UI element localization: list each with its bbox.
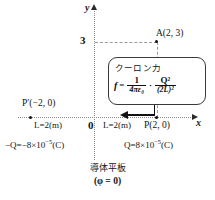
charge-negative-prefix: −Q=−8×10 — [5, 140, 45, 150]
formula-fraction-1-numerator: 1 — [132, 76, 141, 85]
charge-positive-unit: (C) — [161, 140, 173, 150]
y-axis — [94, 8, 95, 160]
formula-equals: = — [119, 80, 124, 90]
callout-title: クーロン力 — [115, 61, 161, 73]
y-tick-label-3: 3 — [80, 34, 86, 46]
formula-fraction-2-denominator: (2L)² — [155, 85, 176, 94]
coulomb-force-callout: クーロン力 f = 1 4πε₀ · Q² (2L)² — [108, 57, 206, 105]
charge-negative-unit: (C) — [52, 140, 64, 150]
origin-label: 0 — [88, 119, 94, 131]
coulomb-force-diagram: y x 3 0 A(2, 3) P′(−2, 0) P(2, 0) L=2(m)… — [0, 0, 215, 200]
point-p-marker — [155, 116, 158, 119]
conductor-plate-caption: 導体平板 (φ = 0) — [0, 162, 215, 189]
formula-fraction-2: Q² (2L)² — [155, 76, 176, 95]
formula-f-symbol: f — [114, 80, 117, 91]
y-axis-arrow-icon — [91, 4, 97, 10]
force-arrow-shaft — [127, 114, 155, 116]
force-arrow-head-icon — [120, 111, 128, 119]
charge-label-positive: Q=8×10−5(C) — [124, 138, 173, 150]
conductor-plate-potential: (φ = 0) — [0, 175, 215, 189]
distance-label-left: L=2(m) — [34, 120, 62, 130]
coulomb-force-formula: f = 1 4πε₀ · Q² (2L)² — [114, 76, 177, 95]
charge-positive-prefix: Q=8×10 — [124, 140, 154, 150]
point-p-label: P(2, 0) — [144, 120, 170, 130]
formula-fraction-1: 1 4πε₀ — [127, 76, 145, 95]
formula-multiply-operator: · — [149, 80, 152, 90]
point-p-prime-marker — [29, 116, 32, 119]
guide-line-horizontal — [95, 42, 157, 43]
distance-label-right: L=2(m) — [103, 120, 131, 130]
formula-fraction-2-numerator: Q² — [158, 76, 172, 85]
charge-label-negative: −Q=−8×10−5(C) — [5, 138, 64, 150]
x-axis — [18, 117, 195, 118]
point-p-prime-label: P′(−2, 0) — [22, 98, 55, 108]
conductor-plate-name: 導体平板 — [0, 162, 215, 175]
y-axis-label: y — [85, 2, 89, 13]
formula-fraction-1-denominator: 4πε₀ — [127, 85, 145, 94]
x-axis-label: x — [196, 117, 201, 128]
point-a-marker — [155, 40, 158, 43]
point-a-label: A(2, 3) — [156, 28, 183, 38]
